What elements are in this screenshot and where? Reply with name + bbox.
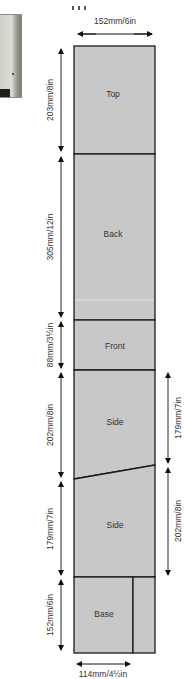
dim-label-right-side-1: 179mm/7in <box>173 397 183 439</box>
cutting-diagram: 152mm/6in Top Back Front Side Side Base … <box>0 0 184 679</box>
dim-label-top: 203mm/8in <box>45 79 55 121</box>
panel-label-base: Base <box>94 609 114 619</box>
panel-label-back: Back <box>104 229 124 239</box>
dim-label-right-side-2: 202mm/8in <box>173 500 183 542</box>
left-dimension-front: 88mm/3½in <box>45 322 61 368</box>
dim-label-front: 88mm/3½in <box>45 323 55 368</box>
left-dimension-base: 152mm/6in <box>45 580 61 650</box>
panel-label-front: Front <box>105 341 125 351</box>
panel-top <box>74 46 155 154</box>
dim-label-back: 305mm/12in <box>45 213 55 260</box>
right-dimension-side-1: 179mm/7in <box>168 373 183 463</box>
panel-label-side-1: Side <box>106 417 123 427</box>
dim-label-side-1: 202mm/8in <box>45 404 55 446</box>
panel-label-top: Top <box>106 89 120 99</box>
right-dimension-side-2: 202mm/8in <box>168 468 183 575</box>
left-dimension-back: 305mm/12in <box>45 157 61 317</box>
top-width-dimension: 152mm/6in <box>78 16 152 34</box>
top-width-label: 152mm/6in <box>94 16 136 26</box>
dim-label-side-2: 179mm/7in <box>45 508 55 550</box>
dim-label-base: 152mm/6in <box>45 594 55 636</box>
panel-label-side-2: Side <box>106 520 123 530</box>
bottom-width-label: 114mm/4½in <box>79 669 128 679</box>
left-dimension-top: 203mm/8in <box>45 49 61 151</box>
panel-offcut <box>133 577 155 653</box>
left-dimension-side-1: 202mm/8in <box>45 373 61 477</box>
bottom-width-dimension: 114mm/4½in <box>77 664 130 679</box>
left-dimension-side-2: 179mm/7in <box>45 482 61 575</box>
